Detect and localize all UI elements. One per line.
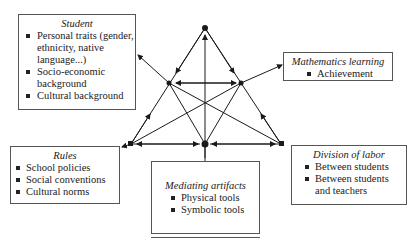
node-bottom-center: [202, 141, 209, 148]
student-item: Cultural background: [19, 90, 135, 102]
node-bottom-left: [128, 141, 133, 146]
math-item: Achievement: [302, 68, 392, 80]
rules-item: Cultural norms: [11, 186, 119, 198]
mediating-item: Symbolic tools: [166, 204, 259, 216]
division-item: Between students: [300, 161, 406, 173]
student-item: Socio-economic background: [19, 66, 135, 90]
arrow-to-student: [138, 55, 169, 83]
node-bottom-right: [279, 141, 284, 146]
node-right-mid: [239, 81, 244, 86]
mediating-artifacts-box: Mediating artifacts Physical tools Symbo…: [151, 161, 260, 234]
node-left-mid: [167, 81, 172, 86]
division-of-labor-box: Division of labor Between students Betwe…: [291, 145, 407, 205]
node-apex: [202, 25, 208, 31]
student-item: Personal traits (gender, ethnicity, nati…: [19, 30, 135, 66]
rules-title: Rules: [11, 150, 119, 162]
mediating-item: Physical tools: [166, 192, 259, 204]
student-title: Student: [19, 18, 135, 30]
division-item: Between students and teachers: [300, 173, 406, 197]
divider: [151, 237, 260, 238]
division-title: Division of labor: [292, 149, 406, 161]
rules-item: School policies: [11, 162, 119, 174]
math-title: Mathematics learning: [284, 56, 392, 68]
mediating-title: Mediating artifacts: [152, 180, 259, 192]
math-learning-box: Mathematics learning Achievement: [283, 52, 393, 81]
arrow-to-math: [241, 65, 282, 83]
rules-item: Social conventions: [11, 174, 119, 186]
student-box: Student Personal traits (gender, ethnici…: [18, 14, 136, 110]
rules-box: Rules School policies Social conventions…: [10, 146, 120, 204]
